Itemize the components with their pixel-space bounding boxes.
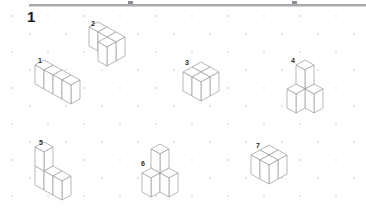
figure-label-1: 1 — [38, 57, 42, 65]
figure-label-4: 4 — [291, 57, 295, 65]
figure-2: 2 — [87, 20, 127, 68]
figure-7: 7 — [249, 143, 289, 186]
figure-label-7: 7 — [256, 142, 260, 150]
figure-label-6: 6 — [141, 160, 145, 168]
figure-4: 4 — [285, 58, 325, 115]
figure-1: 1 — [33, 58, 82, 106]
figure-label-3: 3 — [185, 59, 189, 67]
figure-label-5: 5 — [39, 139, 43, 147]
worksheet-canvas: 1 1234567 — [0, 0, 366, 211]
figures-layer: 1234567 — [0, 0, 366, 211]
figure-label-2: 2 — [91, 20, 95, 28]
figure-5: 5 — [33, 140, 73, 202]
figure-6: 6 — [140, 142, 180, 199]
figure-3: 3 — [181, 60, 221, 103]
